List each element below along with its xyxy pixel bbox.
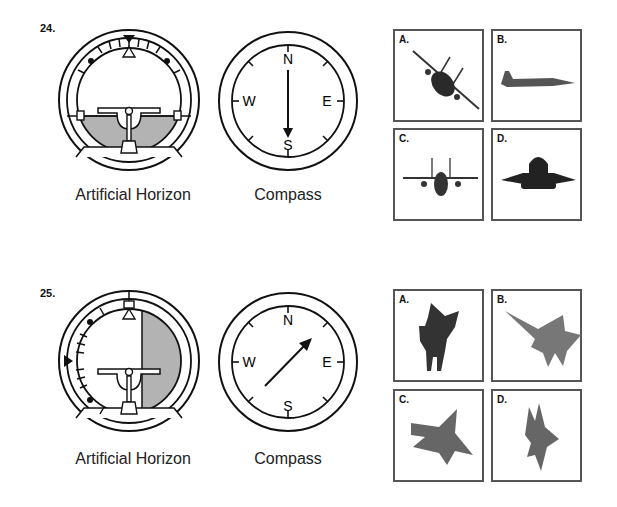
compass-label: Compass	[208, 186, 368, 204]
compass-south: S	[283, 398, 292, 414]
jet-image	[395, 31, 486, 124]
choice-24-b[interactable]: B.	[491, 29, 582, 122]
jet-image	[493, 31, 584, 124]
compass-west: W	[242, 354, 256, 370]
question-number: 24.	[40, 22, 55, 34]
compass-25: N S W E	[213, 287, 363, 437]
compass-east: E	[322, 93, 331, 109]
artificial-horizon-24	[54, 25, 204, 175]
jet-image	[493, 130, 584, 223]
artificial-horizon-label: Artificial Horizon	[53, 186, 213, 204]
choice-24-d[interactable]: D.	[491, 128, 582, 221]
question-number: 25.	[40, 287, 55, 299]
compass-west: W	[242, 93, 256, 109]
compass-east: E	[322, 354, 331, 370]
jet-image	[395, 391, 486, 484]
choice-25-c[interactable]: C.	[393, 389, 484, 482]
artificial-horizon-25	[54, 286, 204, 436]
compass-24: N S W E	[213, 26, 363, 176]
choice-25-d[interactable]: D.	[491, 389, 582, 482]
artificial-horizon-label: Artificial Horizon	[53, 450, 213, 468]
compass-north: N	[283, 51, 293, 67]
jet-image	[493, 291, 584, 384]
compass-south: S	[283, 137, 292, 153]
jet-image	[395, 291, 486, 384]
choice-24-c[interactable]: C.	[393, 128, 484, 221]
jet-image	[493, 391, 584, 484]
compass-north: N	[283, 312, 293, 328]
compass-label: Compass	[208, 450, 368, 468]
choice-25-b[interactable]: B.	[491, 289, 582, 382]
jet-image	[395, 130, 486, 223]
choice-24-a[interactable]: A.	[393, 29, 484, 122]
choice-25-a[interactable]: A.	[393, 289, 484, 382]
